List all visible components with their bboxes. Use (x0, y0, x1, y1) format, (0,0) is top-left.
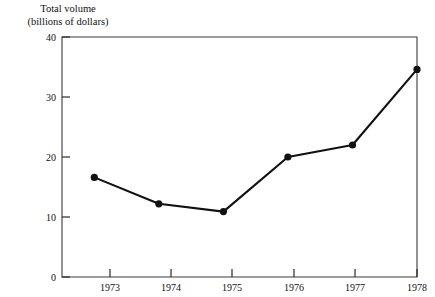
y-tick-label-0: 0 (30, 272, 56, 283)
x-tick-label-1974: 1974 (161, 282, 181, 293)
x-axis-ticks (110, 269, 417, 277)
x-tick-label-1977: 1977 (345, 282, 365, 293)
data-point-1976 (284, 153, 291, 160)
data-point-1975 (220, 208, 227, 215)
x-tick-label-1973: 1973 (100, 282, 120, 293)
plot-area (0, 0, 435, 297)
y-tick-label-40: 40 (30, 32, 56, 43)
y-axis-ticks (62, 37, 70, 277)
series-line (94, 69, 417, 211)
y-tick-label-20: 20 (30, 152, 56, 163)
chart-figure: Total volume(billions of dollars) (0, 0, 435, 297)
data-point-1974 (155, 200, 162, 207)
y-tick-label-10: 10 (30, 212, 56, 223)
axis-frame (62, 37, 417, 277)
x-tick-label-1978: 1978 (407, 282, 427, 293)
data-point-1978 (413, 66, 420, 73)
x-tick-label-1976: 1976 (284, 282, 304, 293)
y-tick-label-30: 30 (30, 92, 56, 103)
x-tick-label-1975: 1975 (222, 282, 242, 293)
data-series-total-volume (91, 66, 421, 215)
data-point-1973 (91, 174, 98, 181)
data-point-1977 (349, 141, 356, 148)
